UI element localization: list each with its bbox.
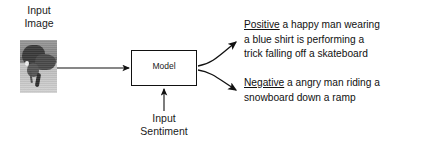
input-image-thumbnail [20, 40, 57, 93]
arrow-model-to-positive [198, 42, 236, 66]
arrow-model-to-negative [198, 70, 236, 90]
output-negative: Negative a angry man riding a snowboard … [244, 76, 420, 105]
output-negative-line1: Negative a angry man riding a [244, 76, 420, 91]
model-label: Model [131, 61, 197, 71]
input-image-label-line2: Image [5, 17, 73, 30]
output-positive: Positive a happy man wearing a blue shir… [244, 18, 420, 62]
output-positive-line2: a blue shirt is performing a [244, 33, 420, 48]
thumbnail-grain-overlay [20, 40, 57, 93]
output-negative-text-line1: a angry man riding a [287, 77, 380, 88]
negative-sentiment-tag: Negative [244, 77, 284, 88]
input-sentiment-label-line1: Input [124, 112, 204, 125]
positive-sentiment-tag: Positive [244, 19, 280, 30]
output-positive-line1: Positive a happy man wearing [244, 18, 420, 33]
output-positive-line3: trick falling off a skateboard [244, 47, 420, 62]
output-positive-text-line1: a happy man wearing [283, 19, 380, 30]
figure-canvas: Input Image Model Input Sentiment Positi… [0, 0, 424, 142]
output-negative-line2: snowboard down a ramp [244, 91, 420, 106]
input-sentiment-label: Input Sentiment [124, 112, 204, 138]
input-image-label: Input Image [5, 4, 73, 30]
input-sentiment-label-line2: Sentiment [124, 125, 204, 138]
input-image-label-line1: Input [5, 4, 73, 17]
